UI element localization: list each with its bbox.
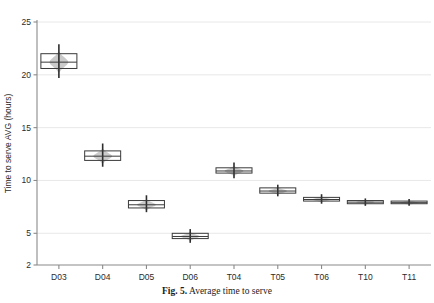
- caption-text: Average time to serve: [189, 286, 272, 296]
- y-tick-label: 5: [26, 228, 31, 238]
- x-tick-label: T10: [358, 272, 373, 282]
- caption-label: Fig. 5.: [162, 286, 187, 296]
- figure-container: 2510152025 D03D04D05D06T04T05T06T10T11 T…: [0, 0, 434, 303]
- boxplot-T11: [391, 199, 427, 206]
- boxplot-chart: 2510152025 D03D04D05D06T04T05T06T10T11 T…: [0, 0, 434, 303]
- y-tick-label: 20: [22, 70, 32, 80]
- figure-caption: Fig. 5. Average time to serve: [0, 286, 434, 296]
- x-tick-label: D03: [51, 272, 67, 282]
- y-tick-label: 25: [22, 17, 32, 27]
- x-tick-label: D06: [182, 272, 198, 282]
- boxplot-D04: [85, 144, 121, 167]
- x-tick-label: T11: [402, 272, 416, 282]
- box-series: [41, 44, 427, 243]
- x-tick-label: T05: [270, 272, 285, 282]
- x-tick-label: T04: [227, 272, 242, 282]
- x-tick-label: D04: [95, 272, 111, 282]
- x-tick-label: T06: [314, 272, 329, 282]
- y-axis-ticks: 2510152025: [22, 17, 37, 270]
- y-axis-label: Time to serve AVG (hours): [3, 93, 13, 193]
- boxplot-T04: [216, 163, 252, 179]
- y-axis-title: Time to serve AVG (hours): [3, 93, 13, 193]
- axes: [37, 20, 431, 265]
- boxplot-T06: [304, 194, 340, 204]
- y-tick-label: 15: [22, 123, 32, 133]
- boxplot-D05: [128, 195, 164, 212]
- boxplot-T05: [260, 185, 296, 197]
- y-tick-label: 10: [22, 175, 32, 185]
- boxplot-T10: [347, 198, 383, 205]
- y-tick-label: 2: [26, 260, 31, 270]
- boxplot-D06: [172, 229, 208, 243]
- boxplot-D03: [41, 44, 77, 78]
- x-tick-label: D05: [139, 272, 155, 282]
- x-axis-ticks: D03D04D05D06T04T05T06T10T11: [51, 265, 416, 282]
